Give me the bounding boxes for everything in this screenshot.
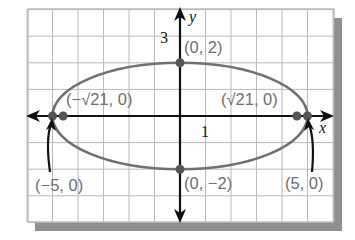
x-axis-label: x — [318, 119, 326, 136]
point-focus-right — [292, 112, 301, 121]
label-vertex-left: (−5, 0) — [35, 176, 83, 194]
point-covertex-bottom — [176, 165, 185, 174]
point-vertex-right — [303, 112, 312, 121]
point-focus-left — [59, 112, 68, 121]
label-vertex-right: (5, 0) — [285, 174, 324, 192]
point-vertex-left — [48, 112, 57, 121]
label-focus-right: (√21, 0) — [221, 90, 278, 108]
tick-label-x-1: 1 — [201, 123, 209, 140]
tick-label-y-3: 3 — [160, 29, 168, 46]
ellipse-graph: y x 3 1 (0, 2) (0, −2) (−√21, 0) (√21, 0… — [0, 0, 355, 240]
label-covertex-top: (0, 2) — [184, 38, 223, 56]
label-focus-left: (−√21, 0) — [66, 90, 132, 108]
y-axis-label: y — [187, 8, 197, 26]
label-covertex-bottom: (0, −2) — [184, 174, 232, 192]
point-covertex-top — [176, 58, 185, 67]
